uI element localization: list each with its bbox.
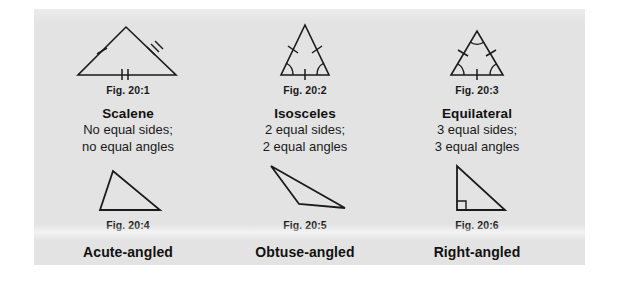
scalene-right-tick-2: [151, 44, 159, 52]
scalene-right-tick-1: [147, 47, 155, 55]
figure-caption: Fig. 20:3: [391, 84, 563, 96]
acute-triangle-diagram: [42, 161, 214, 216]
figure-cell-scalene: Fig. 20:1 Scalene No equal sides; no equ…: [42, 19, 214, 155]
triangle-description-line-1: 3 equal sides;: [391, 122, 563, 138]
isosceles-triangle-diagram: [219, 19, 391, 81]
triangle-type-name: Scalene: [42, 106, 214, 121]
figure-cell-right: Fig. 20:6 Right-angled: [391, 161, 563, 260]
figure-caption: Fig. 20:6: [391, 219, 563, 231]
triangle-type-name: Equilateral: [391, 106, 563, 121]
equilateral-angle-arc-apex: [470, 42, 484, 44]
triangle-type-name: Obtuse-angled: [219, 244, 391, 260]
equilateral-triangle-outline: [451, 31, 503, 75]
obtuse-triangle-diagram: [219, 161, 391, 216]
triangle-description-line-1: No equal sides;: [42, 122, 214, 138]
triangle-description-line-2: no equal angles: [42, 139, 214, 155]
scalene-right-tick-3: [155, 41, 163, 49]
triangle-description-line-2: 2 equal angles: [219, 139, 391, 155]
scalene-left-tick-1: [97, 48, 107, 54]
figure-caption: Fig. 20:2: [219, 84, 391, 96]
triangle-description-line-1: 2 equal sides;: [219, 122, 391, 138]
acute-triangle-outline: [100, 171, 160, 210]
scalene-triangle-outline: [78, 27, 176, 75]
triangle-classification-panel: Fig. 20:1 Scalene No equal sides; no equ…: [34, 9, 585, 265]
right-angle-square-marker: [457, 201, 466, 210]
isosceles-angle-arc-right: [317, 63, 324, 75]
right-triangle-outline: [457, 166, 505, 210]
figure-cell-equilateral: Fig. 20:3 Equilateral 3 equal sides; 3 e…: [391, 19, 563, 155]
isosceles-right-tick-1: [312, 46, 322, 53]
triangle-type-name: Right-angled: [391, 244, 563, 260]
figure-cell-obtuse: Fig. 20:5 Obtuse-angled: [219, 161, 391, 260]
equilateral-angle-arc-right: [490, 64, 496, 75]
obtuse-triangle-outline: [271, 166, 345, 208]
figure-caption: Fig. 20:4: [42, 219, 214, 231]
figure-caption: Fig. 20:5: [219, 219, 391, 231]
isosceles-left-tick-1: [288, 46, 298, 53]
right-triangle-diagram: [391, 161, 563, 216]
triangle-description-line-2: 3 equal angles: [391, 139, 563, 155]
figure-cell-acute: Fig. 20:4 Acute-angled: [42, 161, 214, 260]
figure-caption: Fig. 20:1: [42, 84, 214, 96]
equilateral-triangle-diagram: [391, 19, 563, 81]
isosceles-angle-arc-left: [286, 63, 293, 75]
isosceles-triangle-outline: [281, 25, 329, 75]
equilateral-angle-arc-left: [458, 64, 464, 75]
figure-grid: Fig. 20:1 Scalene No equal sides; no equ…: [34, 9, 585, 265]
triangle-type-name: Isosceles: [219, 106, 391, 121]
scalene-triangle-diagram: [42, 19, 214, 81]
triangle-type-name: Acute-angled: [42, 244, 214, 260]
figure-cell-isosceles: Fig. 20:2 Isosceles 2 equal sides; 2 equ…: [219, 19, 391, 155]
